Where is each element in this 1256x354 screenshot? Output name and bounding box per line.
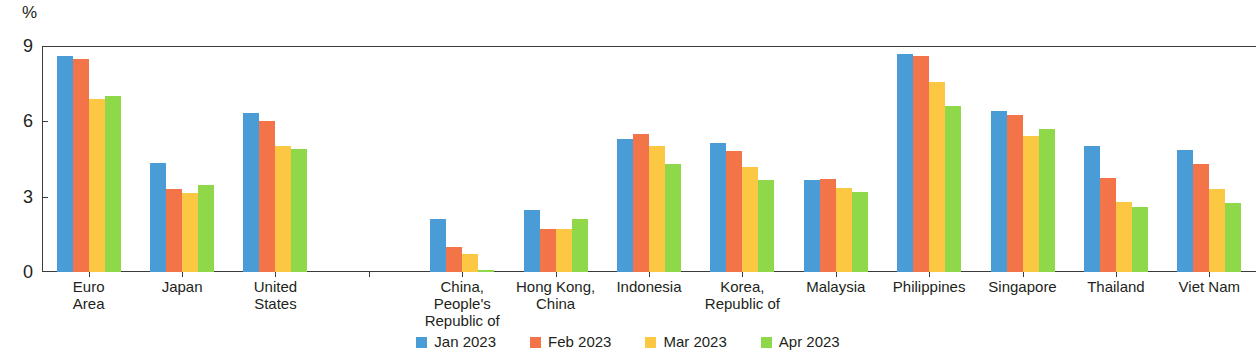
bar[interactable] — [105, 96, 121, 272]
bar[interactable] — [166, 189, 182, 272]
bar[interactable] — [1084, 146, 1100, 272]
x-axis-tick-mark — [369, 272, 370, 277]
chart-legend: Jan 2023Feb 2023Mar 2023Apr 2023 — [0, 334, 1256, 350]
x-axis-tick-mark — [462, 272, 463, 277]
bar[interactable] — [897, 54, 913, 272]
bar[interactable] — [89, 99, 105, 272]
bar-stack — [696, 46, 789, 272]
y-axis-unit-label: % — [22, 4, 37, 22]
bar[interactable] — [1209, 189, 1225, 272]
bar[interactable] — [929, 82, 945, 272]
x-axis-tick-mark — [275, 272, 276, 277]
bar[interactable] — [1116, 202, 1132, 272]
bar[interactable] — [540, 229, 556, 272]
bar[interactable] — [150, 163, 166, 272]
bar-stack — [509, 46, 602, 272]
legend-item[interactable]: Jan 2023 — [416, 334, 496, 350]
bar[interactable] — [243, 113, 259, 272]
bar-stack — [789, 46, 882, 272]
bar-group: Singapore — [976, 46, 1069, 272]
bar[interactable] — [1193, 164, 1209, 272]
bar[interactable] — [913, 56, 929, 272]
bar-stack — [1069, 46, 1162, 272]
y-axis-tick-label: 9 — [23, 37, 33, 55]
bar[interactable] — [291, 149, 307, 272]
x-axis-tick-mark — [556, 272, 557, 277]
bar-stack — [229, 46, 322, 272]
bar-stack — [416, 46, 509, 272]
bar[interactable] — [556, 229, 572, 272]
bar[interactable] — [478, 270, 494, 273]
bar[interactable] — [524, 210, 540, 272]
bar-stack — [976, 46, 1069, 272]
inflation-bar-chart: % 0369 Euro AreaJapanUnited StatesChina,… — [0, 0, 1256, 354]
plot-area: 0369 Euro AreaJapanUnited StatesChina, P… — [42, 46, 1256, 272]
legend-item-label: Feb 2023 — [548, 334, 611, 350]
bar[interactable] — [742, 167, 758, 272]
bar-group: Philippines — [882, 46, 975, 272]
bar[interactable] — [73, 59, 89, 272]
bar[interactable] — [726, 151, 742, 272]
bar-group: China, People's Republic of — [416, 46, 509, 272]
bar-stack — [135, 46, 228, 272]
legend-item-label: Mar 2023 — [663, 334, 726, 350]
legend-item-label: Apr 2023 — [779, 334, 840, 350]
bar[interactable] — [633, 134, 649, 272]
bar[interactable] — [945, 106, 961, 272]
bar[interactable] — [572, 219, 588, 272]
bar[interactable] — [820, 179, 836, 272]
bar[interactable] — [852, 192, 868, 272]
bar-group: Viet Nam — [1163, 46, 1256, 272]
bar[interactable] — [665, 164, 681, 272]
bar-group: Malaysia — [789, 46, 882, 272]
bar-group: Korea, Republic of — [696, 46, 789, 272]
bar[interactable] — [836, 188, 852, 272]
bar[interactable] — [1177, 150, 1193, 272]
legend-swatch-blue — [416, 337, 427, 348]
bar[interactable] — [1007, 115, 1023, 272]
x-axis-category-label: Viet Nam — [1143, 278, 1256, 295]
bar[interactable] — [446, 247, 462, 272]
bar[interactable] — [1039, 129, 1055, 272]
legend-item[interactable]: Apr 2023 — [761, 334, 840, 350]
x-axis-tick-mark — [1209, 272, 1210, 277]
bar[interactable] — [991, 111, 1007, 272]
x-axis-tick-mark — [929, 272, 930, 277]
bar-stack — [882, 46, 975, 272]
bar-group: Japan — [135, 46, 228, 272]
bar[interactable] — [182, 193, 198, 272]
legend-item[interactable]: Feb 2023 — [530, 334, 611, 350]
bar[interactable] — [617, 139, 633, 272]
x-axis-tick-mark — [89, 272, 90, 277]
x-axis-tick-mark — [1023, 272, 1024, 277]
bar[interactable] — [198, 185, 214, 272]
bar-group-spacer — [322, 46, 415, 272]
legend-swatch-orange — [530, 337, 541, 348]
bar[interactable] — [758, 180, 774, 272]
legend-item[interactable]: Mar 2023 — [645, 334, 726, 350]
bar[interactable] — [804, 180, 820, 272]
bar-stack — [1163, 46, 1256, 272]
x-axis-tick-mark — [1116, 272, 1117, 277]
y-axis-tick-label: 6 — [23, 112, 33, 130]
bar[interactable] — [1100, 178, 1116, 272]
x-axis-tick-mark — [742, 272, 743, 277]
bar[interactable] — [1023, 136, 1039, 272]
bar[interactable] — [430, 219, 446, 272]
legend-item-label: Jan 2023 — [434, 334, 496, 350]
bar-group: United States — [229, 46, 322, 272]
bar[interactable] — [57, 56, 73, 272]
x-axis-tick-mark — [649, 272, 650, 277]
bar-group: Hong Kong, China — [509, 46, 602, 272]
bar-group: Thailand — [1069, 46, 1162, 272]
bar[interactable] — [1225, 203, 1241, 272]
bar-stack — [322, 46, 415, 272]
bar[interactable] — [649, 146, 665, 272]
bar[interactable] — [1132, 207, 1148, 272]
legend-swatch-green — [761, 337, 772, 348]
bar[interactable] — [710, 143, 726, 272]
bar[interactable] — [275, 146, 291, 272]
bar[interactable] — [259, 121, 275, 272]
x-axis-category-label: United States — [209, 278, 341, 312]
bar[interactable] — [462, 254, 478, 272]
